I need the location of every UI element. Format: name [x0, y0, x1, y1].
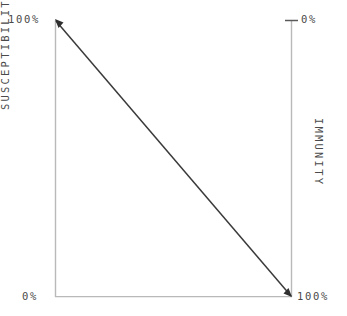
left-axis-bottom-tick-label: 0% [22, 291, 38, 302]
right-axis-top-tick-label: 0% [301, 14, 317, 25]
right-axis-bottom-tick-label: 100% [297, 291, 329, 302]
left-axis-top-tick-label: 100% [8, 14, 40, 25]
left-axis-title: SUSCEPTIBILITY [0, 96, 11, 110]
trend-line [56, 21, 291, 296]
right-axis-title: IMMUNITY [314, 118, 325, 132]
arrowhead-up-left-icon [55, 19, 64, 28]
chart-plot-area [0, 0, 347, 316]
chart-container: 100% 0% 0% 100% SUSCEPTIBILITY IMMUNITY [0, 0, 347, 316]
